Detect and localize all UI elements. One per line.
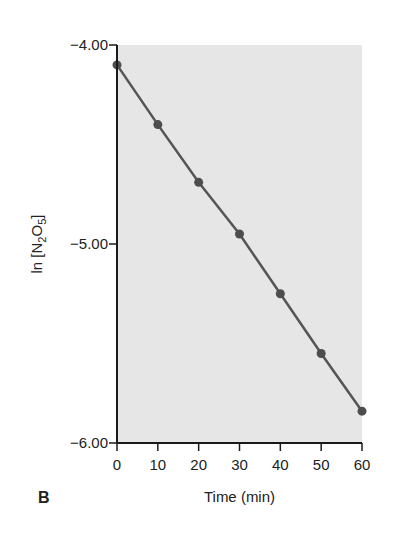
y-axis-title: ln [N2O5] — [28, 215, 48, 274]
data-point — [153, 120, 162, 129]
x-tick-label: 30 — [231, 456, 248, 473]
x-tick-label: 10 — [149, 456, 166, 473]
x-tick-label: 0 — [113, 456, 121, 473]
data-point — [235, 230, 244, 239]
data-point — [276, 289, 285, 298]
y-tick-label: −5.00 — [70, 235, 108, 252]
data-point — [317, 349, 326, 358]
y-tick-label: −6.00 — [70, 434, 108, 451]
x-tick-label: 20 — [190, 456, 207, 473]
x-tick-label: 40 — [272, 456, 289, 473]
data-point — [358, 407, 367, 416]
x-axis-title: Time (min) — [204, 488, 275, 505]
y-tick-label: −4.00 — [70, 36, 108, 53]
data-point — [194, 178, 203, 187]
x-tick-label: 50 — [313, 456, 330, 473]
chart: −4.00−5.00−6.000102030405060 Time (min)l… — [0, 0, 396, 543]
x-tick-label: 60 — [354, 456, 371, 473]
panel-label: B — [38, 489, 50, 506]
plot-area — [117, 45, 362, 443]
